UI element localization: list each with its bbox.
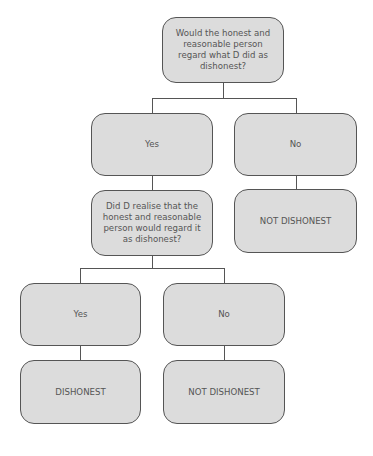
question-2-box: Did D realise that the honest and reason… [91, 190, 213, 256]
q2-no-label: No [218, 309, 230, 320]
q1-no-result-box: NOT DISHONEST [234, 189, 357, 253]
connector-q2-no-to-result [224, 345, 225, 360]
connector-q1-branch [152, 98, 297, 99]
connector-q2-yes-to-result [80, 345, 81, 360]
q2-yes-result-box: DISHONEST [20, 360, 141, 424]
connector-q1-no-to-result [296, 175, 297, 189]
connector-q2-down [152, 255, 153, 269]
q2-yes-label: Yes [74, 309, 88, 320]
connector-q1-yes-to-q2 [152, 175, 153, 190]
q1-yes-box: Yes [91, 113, 213, 176]
q1-no-box: No [234, 113, 357, 176]
q1-yes-label: Yes [145, 139, 159, 150]
connector-to-q1-no [296, 98, 297, 113]
q2-yes-box: Yes [20, 283, 141, 346]
connector-q1-down [223, 82, 224, 98]
q2-yes-result-label: DISHONEST [55, 387, 105, 398]
q2-no-result-box: NOT DISHONEST [163, 360, 285, 424]
connector-q2-branch [80, 268, 225, 269]
question-1-text: Would the honest and reasonable person r… [173, 28, 273, 72]
connector-to-q2-yes [80, 268, 81, 283]
question-2-text: Did D realise that the honest and reason… [102, 201, 202, 245]
q2-no-box: No [163, 283, 285, 346]
connector-to-q1-yes [152, 98, 153, 113]
q1-no-result-label: NOT DISHONEST [260, 216, 332, 227]
connector-to-q2-no [224, 268, 225, 283]
q2-no-result-label: NOT DISHONEST [188, 387, 260, 398]
q1-no-label: No [290, 139, 302, 150]
question-1-box: Would the honest and reasonable person r… [162, 17, 284, 83]
